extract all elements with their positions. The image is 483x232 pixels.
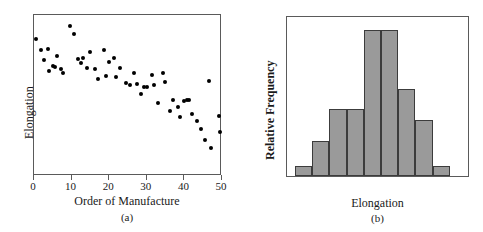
scatter-point xyxy=(145,85,149,89)
scatter-point xyxy=(176,105,180,109)
panel-b-histogram: Relative Frequency Elongation (b) xyxy=(241,0,483,232)
panel-a-caption: (a) xyxy=(33,211,221,223)
histogram-bar xyxy=(295,166,312,176)
scatter-point xyxy=(88,50,92,54)
scatter-point xyxy=(132,71,136,75)
scatter-point xyxy=(55,54,59,58)
scatter-point xyxy=(42,58,46,62)
scatter-point xyxy=(128,83,132,87)
scatter-point xyxy=(61,71,65,75)
histogram-y-axis-label: Relative Frequency xyxy=(263,61,278,160)
scatter-point xyxy=(112,56,116,60)
scatter-point xyxy=(218,130,222,134)
scatter-point xyxy=(178,115,182,119)
scatter-point xyxy=(152,83,156,87)
scatter-plot-area xyxy=(33,14,221,175)
histogram-bar xyxy=(398,89,415,176)
scatter-point xyxy=(114,75,118,79)
histogram-bar xyxy=(415,120,432,176)
scatter-point xyxy=(135,82,139,86)
scatter-point xyxy=(79,61,83,65)
scatter-point xyxy=(139,92,143,96)
scatter-point xyxy=(168,109,172,113)
histogram-bar xyxy=(347,109,364,176)
x-axis-tick-label: 0 xyxy=(20,180,46,192)
scatter-point xyxy=(96,77,100,81)
x-axis-tick-label: 40 xyxy=(170,180,196,192)
scatter-point xyxy=(163,80,167,84)
scatter-point xyxy=(187,98,191,102)
scatter-point xyxy=(93,67,97,71)
figure-two-panel: 01020304050 Elongation Order of Manufact… xyxy=(0,0,483,232)
x-axis-tick-label: 10 xyxy=(58,180,84,192)
scatter-point xyxy=(39,48,43,52)
panel-a-scatter: 01020304050 Elongation Order of Manufact… xyxy=(0,0,241,232)
scatter-point xyxy=(81,56,85,60)
scatter-point xyxy=(102,48,106,52)
scatter-point xyxy=(207,79,211,83)
scatter-x-axis-label: Order of Manufacture xyxy=(33,194,221,209)
scatter-point xyxy=(72,32,76,36)
scatter-point xyxy=(161,71,165,75)
histogram-bars-container xyxy=(287,17,468,176)
histogram-bar xyxy=(381,30,398,176)
x-axis-tick-label: 50 xyxy=(208,180,234,192)
histogram-x-axis-label: Elongation xyxy=(286,196,469,211)
scatter-point xyxy=(68,24,72,28)
scatter-point xyxy=(156,101,160,105)
scatter-point xyxy=(209,146,213,150)
histogram-bar xyxy=(312,141,329,176)
histogram-bar xyxy=(329,109,346,176)
panel-b-caption: (b) xyxy=(286,212,469,224)
histogram-bar xyxy=(433,166,450,176)
scatter-point xyxy=(85,66,89,70)
scatter-point xyxy=(107,60,111,64)
scatter-point xyxy=(118,66,122,70)
scatter-point xyxy=(190,112,194,116)
scatter-point xyxy=(47,69,51,73)
scatter-point xyxy=(217,114,221,118)
x-axis-tick-label: 30 xyxy=(133,180,159,192)
scatter-point xyxy=(53,65,57,69)
x-axis-tick-label: 20 xyxy=(95,180,121,192)
histogram-plot-area xyxy=(286,16,469,177)
scatter-point xyxy=(46,47,50,51)
scatter-point xyxy=(195,119,199,123)
scatter-point xyxy=(199,127,203,131)
histogram-bar xyxy=(364,30,381,176)
scatter-point xyxy=(203,138,207,142)
scatter-point xyxy=(34,37,38,41)
scatter-point xyxy=(171,98,175,102)
scatter-point xyxy=(104,74,108,78)
scatter-y-axis-label: Elongation xyxy=(22,86,37,139)
scatter-point xyxy=(150,73,154,77)
